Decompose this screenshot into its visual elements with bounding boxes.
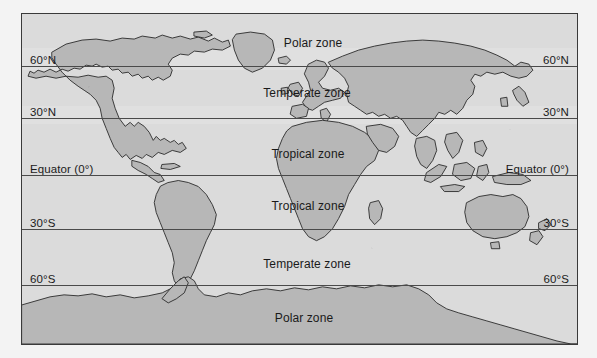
land-indochina <box>445 132 463 158</box>
land-iberia <box>290 104 308 118</box>
zone-label-polar-north: Polar zone <box>284 36 342 50</box>
latitude-label-left-60n: 60°N <box>30 54 56 66</box>
latitude-line-60s <box>22 285 577 286</box>
zone-label-temperate-north: Temperate zone <box>263 86 350 100</box>
latitude-label-right-30n: 30°N <box>543 106 569 118</box>
land-philippines <box>475 140 487 156</box>
land-sulawesi <box>477 164 489 180</box>
land-south-america <box>154 181 216 287</box>
land-java <box>441 185 465 192</box>
land-north-america <box>28 35 230 159</box>
land-japan <box>513 86 529 106</box>
land-africa <box>276 120 378 240</box>
landmass-layer <box>22 14 577 344</box>
latitude-label-left-60s: 60°S <box>30 273 55 285</box>
zone-label-tropical-south: Tropical zone <box>272 199 345 213</box>
land-caribbean <box>161 163 180 169</box>
latitude-line-30n <box>22 118 577 119</box>
zone-label-temperate-south: Temperate zone <box>263 257 350 271</box>
land-iceland <box>278 56 290 64</box>
latitude-label-left-30n: 30°N <box>30 106 56 118</box>
latitude-line-60n <box>22 66 577 67</box>
land-australia <box>465 195 529 239</box>
latitude-label-right-60n: 60°N <box>543 54 569 66</box>
latitude-line-30s <box>22 229 577 230</box>
latitude-label-right-equator: Equator (0°) <box>506 163 569 175</box>
land-madagascar <box>369 201 383 225</box>
latitude-label-right-60s: 60°S <box>544 273 569 285</box>
latitude-label-left-equator: Equator (0°) <box>30 163 93 175</box>
zone-label-tropical-north: Tropical zone <box>272 147 345 161</box>
land-india <box>415 136 437 168</box>
zone-label-polar-south: Polar zone <box>275 311 333 325</box>
land-korea <box>501 97 508 106</box>
land-central-america <box>132 160 164 182</box>
land-new-zealand-south <box>530 231 543 245</box>
latitude-line-equator <box>22 175 577 176</box>
land-arctic-islands <box>194 31 212 38</box>
world-map-figure: 60°N 60°N 30°N 30°N Equator (0°) Equator… <box>21 13 578 345</box>
land-asia <box>329 40 533 136</box>
latitude-label-left-30s: 30°S <box>30 217 55 229</box>
latitude-label-right-30s: 30°S <box>544 217 569 229</box>
land-borneo <box>453 162 475 180</box>
land-tasmania <box>491 242 500 249</box>
